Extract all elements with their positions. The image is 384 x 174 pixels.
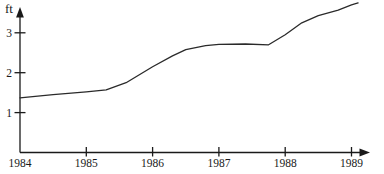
data-series-line bbox=[20, 3, 358, 98]
y-tick-label: 2 bbox=[6, 67, 12, 79]
x-tick-label: 1989 bbox=[340, 157, 363, 169]
chart-plot-area: 123198419851986198719881989 bbox=[6, 3, 370, 169]
line-chart: ft 123198419851986198719881989 bbox=[0, 0, 384, 174]
line-chart-figure: ft 123198419851986198719881989 bbox=[0, 0, 384, 174]
x-tick-label: 1986 bbox=[141, 157, 164, 169]
y-axis-arrow-icon bbox=[16, 7, 24, 18]
y-tick-label: 1 bbox=[6, 107, 12, 119]
y-tick-label: 3 bbox=[6, 27, 12, 39]
x-tick-label: 1984 bbox=[9, 157, 32, 169]
x-axis-arrow-icon bbox=[360, 149, 371, 157]
x-tick-label: 1988 bbox=[274, 157, 297, 169]
x-tick-label: 1987 bbox=[207, 157, 230, 169]
y-axis-unit-label: ft bbox=[5, 1, 13, 16]
x-tick-label: 1985 bbox=[75, 157, 98, 169]
